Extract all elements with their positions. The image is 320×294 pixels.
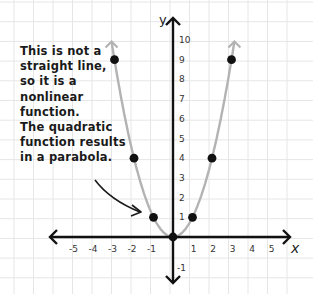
- x-tick-label: -2: [128, 244, 137, 254]
- annotation-line: straight line,: [20, 59, 180, 74]
- data-point: [169, 233, 178, 242]
- y-tick-label: 10: [179, 35, 191, 45]
- annotation-line: in a parabola.: [20, 150, 180, 165]
- x-tick-label: -3: [108, 244, 117, 254]
- y-axis-label: y: [159, 12, 167, 27]
- y-tick-label: 2: [179, 193, 185, 203]
- x-tick-label: -5: [69, 244, 78, 254]
- annotation-text: This is not a straight line, so it is a …: [20, 44, 180, 166]
- x-tick-label: 2: [210, 244, 216, 254]
- annotation-line: The quadratic: [20, 120, 180, 135]
- annotation-line: nonlinear: [20, 90, 180, 105]
- x-tick-label: 3: [230, 244, 236, 254]
- data-point: [227, 55, 236, 64]
- x-tick-label: 5: [269, 244, 275, 254]
- x-axis-label: x: [290, 240, 300, 256]
- annotation-arrow: [95, 180, 140, 212]
- data-point: [208, 154, 217, 163]
- x-tick-label: 4: [249, 244, 255, 254]
- annotation-line: This is not a: [20, 44, 180, 59]
- x-tick-label: -1: [147, 244, 156, 254]
- annotation-line: function.: [20, 105, 180, 120]
- annotation-line: so it is a: [20, 74, 180, 89]
- x-tick-label: 1: [191, 244, 197, 254]
- data-point: [188, 213, 197, 222]
- x-tick-label: -4: [89, 244, 98, 254]
- y-tick-label: 3: [179, 173, 185, 183]
- y-tick-label: 1: [179, 212, 185, 222]
- annotation-line: function results: [20, 135, 180, 150]
- data-point: [149, 213, 158, 222]
- y-tick-label: -1: [177, 263, 186, 273]
